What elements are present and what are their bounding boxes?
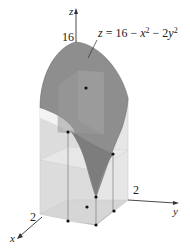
z-axis-tick-label: 16 <box>62 31 74 43</box>
x-axis-label: x <box>10 233 15 244</box>
point <box>66 130 69 133</box>
x-axis-tick-label: 2 <box>30 211 36 223</box>
surface-equation-label: z = 16 − x2 − 2y2 <box>98 27 178 39</box>
point <box>85 205 88 208</box>
eq-equals: = 16 − <box>103 26 141 40</box>
point <box>112 209 115 212</box>
point <box>84 86 87 89</box>
paraboloid-figure: z 16 z = 16 − x2 − 2y2 x 2 y 2 <box>0 0 190 249</box>
z-axis-arrow-icon <box>74 8 78 14</box>
y-axis-tick-label: 2 <box>133 184 139 196</box>
eq-mid: − 2 <box>150 26 169 40</box>
y-axis <box>128 200 175 203</box>
point <box>94 195 97 198</box>
z-axis-label: z <box>69 6 73 17</box>
eq-y-exp: 2 <box>174 26 178 35</box>
point <box>94 223 97 226</box>
point <box>66 219 69 222</box>
y-axis-label: y <box>173 206 178 217</box>
point <box>111 152 114 155</box>
